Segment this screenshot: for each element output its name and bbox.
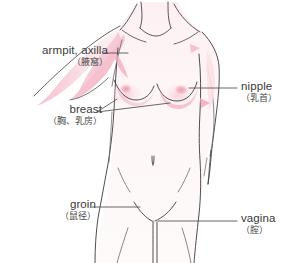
label-groin-en: groin [6, 198, 96, 211]
label-groin: groin （鼠径） [6, 198, 96, 221]
label-armpit: armpit, axilla （腋窩） [6, 44, 108, 67]
anatomy-diagram: armpit, axilla （腋窩） breast （胸、乳房） nipple… [0, 0, 289, 263]
label-vagina: vagina （腟） [241, 212, 289, 235]
label-breast-en: breast [6, 103, 102, 116]
label-breast-ja: （胸、乳房） [6, 116, 102, 126]
label-vagina-en: vagina [241, 212, 289, 225]
label-nipple: nipple （乳首） [241, 80, 289, 103]
label-armpit-en: armpit, axilla [6, 44, 108, 57]
label-nipple-en: nipple [241, 80, 289, 93]
label-nipple-ja: （乳首） [241, 93, 289, 103]
label-armpit-ja: （腋窩） [6, 57, 108, 67]
label-vagina-ja: （腟） [241, 225, 289, 235]
label-groin-ja: （鼠径） [6, 211, 96, 221]
label-breast: breast （胸、乳房） [6, 103, 102, 126]
